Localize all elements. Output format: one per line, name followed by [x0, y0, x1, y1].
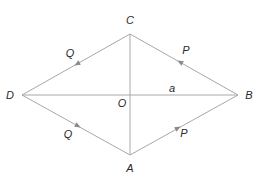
label-o: O: [118, 97, 127, 109]
label-b: B: [245, 89, 252, 101]
edge-ab: [130, 95, 238, 155]
arrow-q-upper-icon: [73, 60, 81, 67]
label-p-lower: P: [180, 127, 188, 139]
label-q-upper: Q: [66, 47, 75, 59]
rhombus-diagram: C D B A O a Q Q P P: [0, 0, 270, 183]
label-p-upper: P: [182, 44, 190, 56]
label-a: A: [125, 162, 133, 174]
label-a-diagonal: a: [169, 82, 175, 94]
label-d: D: [6, 89, 14, 101]
label-c: C: [126, 14, 134, 26]
label-q-lower: Q: [64, 128, 73, 140]
arrow-q-lower-icon: [74, 122, 82, 129]
arrow-p-upper-icon: [176, 58, 184, 65]
